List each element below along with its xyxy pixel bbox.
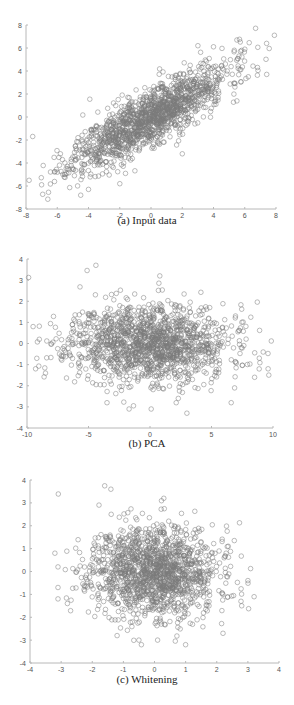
y-tick-label: -1 <box>20 591 26 598</box>
y-tick-label: -4 <box>20 660 26 667</box>
y-tick-label: -4 <box>16 160 22 167</box>
caption-input-data: (a) Input data <box>0 214 294 226</box>
data-points <box>26 263 273 416</box>
y-tick-label: -4 <box>17 425 23 432</box>
y-tick-label: 8 <box>18 22 22 29</box>
scatter-plot-input-data: -8-6-4-202468-8-6-4-202468 <box>0 0 294 232</box>
y-tick-label: 0 <box>19 340 23 347</box>
x-tick-label: 3 <box>246 666 250 673</box>
y-tick-label: 4 <box>18 68 22 75</box>
caption-pca: (b) PCA <box>0 437 294 449</box>
y-tick-label: -3 <box>17 403 23 410</box>
y-tick-label: -2 <box>17 382 23 389</box>
x-tick-label: -1 <box>120 666 126 673</box>
y-tick-label: 2 <box>19 298 23 305</box>
figure-whitening: -4-3-2-101234-4-3-2-101234 (c) Whitening <box>0 460 294 705</box>
y-tick-label: 2 <box>22 522 26 529</box>
y-tick-label: 1 <box>22 545 26 552</box>
y-tick-label: 3 <box>22 499 26 506</box>
y-tick-label: 4 <box>19 256 23 263</box>
y-tick-label: 4 <box>22 477 26 484</box>
figure-pca: -10-50510-4-3-2-101234 (b) PCA <box>0 232 294 460</box>
x-tick-label: 4 <box>277 666 281 673</box>
y-tick-label: 6 <box>18 45 22 52</box>
y-tick-label: 0 <box>22 568 26 575</box>
y-tick-label: 2 <box>18 91 22 98</box>
data-points <box>27 26 277 202</box>
x-tick-label: 1 <box>184 666 188 673</box>
x-tick-label: 0 <box>153 666 157 673</box>
scatter-plot-whitening: -4-3-2-101234-4-3-2-101234 <box>0 460 294 705</box>
y-tick-label: 1 <box>19 319 23 326</box>
x-tick-label: -4 <box>27 666 33 673</box>
y-tick-label: -2 <box>16 137 22 144</box>
y-tick-label: -2 <box>20 614 26 621</box>
y-tick-label: 0 <box>18 114 22 121</box>
y-tick-label: 3 <box>19 277 23 284</box>
y-tick-label: -8 <box>16 206 22 213</box>
y-tick-label: -3 <box>20 637 26 644</box>
x-tick-label: -2 <box>89 666 95 673</box>
caption-whitening: (c) Whitening <box>0 673 294 685</box>
x-tick-label: 2 <box>215 666 219 673</box>
scatter-plot-pca: -10-50510-4-3-2-101234 <box>0 232 294 460</box>
figure-input-data: -8-6-4-202468-8-6-4-202468 (a) Input dat… <box>0 0 294 232</box>
y-tick-label: -6 <box>16 183 22 190</box>
y-tick-label: -1 <box>17 361 23 368</box>
x-tick-label: -3 <box>58 666 64 673</box>
data-points <box>53 484 257 648</box>
